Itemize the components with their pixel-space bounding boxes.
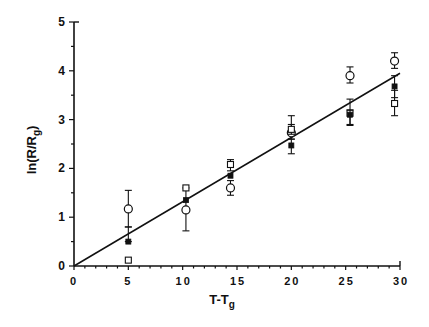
series-open-circle xyxy=(124,53,398,231)
filled-square-marker xyxy=(289,143,294,148)
data-point xyxy=(346,67,354,83)
open-circle-marker xyxy=(346,72,354,80)
data-point xyxy=(183,185,189,191)
data-points xyxy=(124,53,398,263)
axes: 051015202530012345 xyxy=(58,15,409,287)
y-tick-label: 2 xyxy=(58,161,65,175)
open-square-marker xyxy=(227,161,233,167)
y-tick-label: 1 xyxy=(58,210,65,224)
data-point xyxy=(182,188,190,231)
open-square-marker xyxy=(183,185,189,191)
x-axis-label: T-Tg xyxy=(209,292,235,310)
regression-line xyxy=(74,73,400,266)
data-point xyxy=(391,76,398,98)
open-circle-marker xyxy=(182,206,190,214)
x-tick-label: 10 xyxy=(176,275,192,287)
data-point xyxy=(347,110,354,126)
series-open-square xyxy=(125,90,398,263)
y-tick-label: 5 xyxy=(58,15,65,29)
filled-square-marker xyxy=(228,173,233,178)
x-tick-label: 0 xyxy=(70,275,78,287)
y-tick-label: 0 xyxy=(58,259,65,273)
filled-square-marker xyxy=(126,239,131,244)
fit-line xyxy=(74,73,400,266)
open-square-marker xyxy=(125,257,131,263)
data-point xyxy=(124,190,132,227)
chart: 051015202530012345 T-Tg ln(R/Rg) xyxy=(0,0,429,327)
data-point xyxy=(288,139,295,154)
y-tick-label: 3 xyxy=(58,113,65,127)
filled-square-marker xyxy=(392,84,397,89)
scatter-plot: 051015202530012345 T-Tg ln(R/Rg) xyxy=(0,0,429,327)
data-point xyxy=(227,160,234,171)
x-tick-label: 25 xyxy=(339,275,355,287)
x-tick-label: 30 xyxy=(393,275,409,287)
x-tick-label: 5 xyxy=(124,275,132,287)
open-circle-marker xyxy=(226,184,234,192)
filled-square-marker xyxy=(348,112,353,117)
x-tick-label: 15 xyxy=(230,275,246,287)
filled-square-marker xyxy=(183,198,188,203)
series-filled-square xyxy=(125,76,398,244)
open-circle-marker xyxy=(391,57,399,65)
y-tick-label: 4 xyxy=(58,64,65,78)
data-point xyxy=(391,53,399,69)
x-tick-label: 20 xyxy=(284,275,300,287)
data-point xyxy=(226,181,234,196)
data-point xyxy=(183,198,188,203)
open-square-marker xyxy=(288,126,294,132)
open-circle-marker xyxy=(124,205,132,213)
data-point xyxy=(125,257,131,263)
data-point xyxy=(228,173,233,178)
open-square-marker xyxy=(392,100,398,106)
y-axis-label: ln(R/Rg) xyxy=(24,126,42,175)
